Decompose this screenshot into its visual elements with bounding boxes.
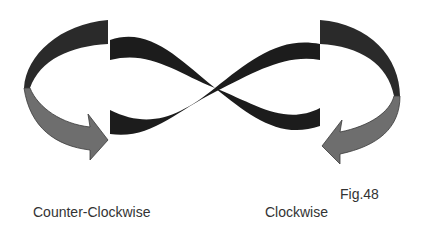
clockwise-arrow-icon (322, 96, 400, 164)
clockwise-label: Clockwise (265, 204, 328, 220)
counter-clockwise-label: Counter-Clockwise (33, 204, 150, 220)
right-outer-arc (320, 20, 400, 96)
left-outer-arc (24, 20, 108, 88)
counter-clockwise-arrow-icon (24, 88, 108, 160)
figure-number-label: Fig.48 (340, 186, 379, 202)
